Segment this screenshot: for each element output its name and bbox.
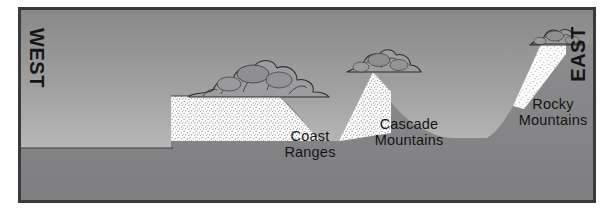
cross-section-scene: WEST EAST Coast Ranges Cascade Mountains… (21, 10, 593, 200)
figure-frame: WEST EAST Coast Ranges Cascade Mountains… (18, 7, 596, 203)
rain-shadow-figure: WEST EAST Coast Ranges Cascade Mountains… (0, 0, 612, 211)
feature-label-cascade-mountains: Cascade Mountains (359, 116, 459, 148)
feature-label-rocky-mountains: Rocky Mountains (507, 96, 593, 128)
feature-label-coast-ranges: Coast Ranges (267, 128, 353, 160)
direction-label-east: EAST (567, 26, 587, 81)
direction-label-west: WEST (27, 28, 47, 88)
